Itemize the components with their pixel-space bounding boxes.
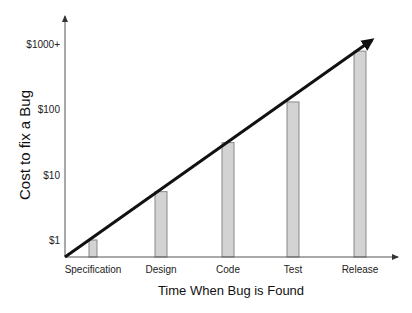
y-tick-label: $1000+: [26, 39, 60, 50]
bars-group: [89, 51, 366, 257]
x-category-labels: SpecificationDesignCodeTestRelease: [65, 264, 379, 275]
y-tick-label: $1: [49, 235, 61, 246]
y-tick-label: $10: [43, 170, 60, 181]
x-category-label: Code: [216, 264, 240, 275]
y-axis-title: Cost to fix a Bug: [16, 90, 33, 200]
bar-test: [287, 102, 299, 257]
cost-of-bug-chart: $1$10$100$1000+ SpecificationDesignCodeT…: [0, 0, 412, 313]
bar-design: [155, 192, 167, 257]
bar-code: [222, 143, 234, 257]
bar-release: [354, 51, 366, 257]
bar-specification: [89, 240, 97, 257]
x-category-label: Specification: [65, 264, 122, 275]
x-category-label: Test: [284, 264, 303, 275]
y-tick-label: $100: [38, 104, 61, 115]
x-axis-title: Time When Bug is Found: [158, 283, 304, 298]
x-category-label: Design: [145, 264, 176, 275]
x-category-label: Release: [342, 264, 379, 275]
trend-arrow: [65, 40, 372, 257]
